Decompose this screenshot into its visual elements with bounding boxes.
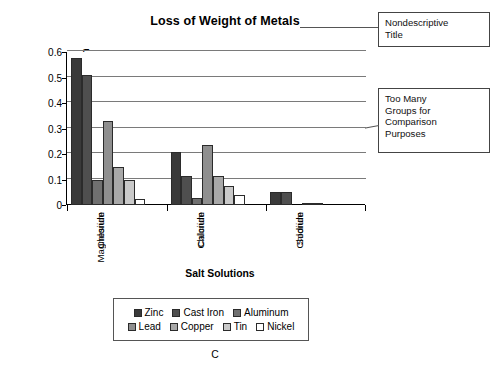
- figure-caption: C: [185, 349, 245, 360]
- legend-item-aluminum: Aluminum: [233, 307, 288, 318]
- x-axis-title: Salt Solutions: [120, 268, 320, 279]
- legend-swatch-icon: [134, 309, 142, 317]
- legend-label: Lead: [139, 321, 161, 332]
- annotation-line: Title: [385, 29, 484, 41]
- bar: [103, 121, 114, 205]
- bar: [82, 75, 93, 205]
- annotation-too-many-groups: Too Many Groups for Comparison Purposes: [378, 88, 490, 153]
- y-tick-mark: [62, 205, 66, 206]
- bar: [202, 145, 213, 205]
- bar: [281, 192, 292, 205]
- annotation-line: Purposes: [385, 128, 484, 140]
- annotation-line: Comparison: [385, 116, 484, 128]
- y-tick-label: 0.6: [36, 47, 62, 58]
- legend-swatch-icon: [256, 323, 264, 331]
- x-category-label-line: Chloride: [96, 212, 106, 249]
- bar: [181, 176, 192, 205]
- annotation-nondescriptive-title: Nondescriptive Title: [378, 12, 490, 47]
- gridline: [67, 50, 366, 51]
- bar: [135, 199, 146, 205]
- legend-swatch-icon: [233, 309, 241, 317]
- legend-item-cast-iron: Cast Iron: [172, 307, 224, 318]
- legend-label: Copper: [181, 321, 214, 332]
- legend-item-zinc: Zinc: [134, 307, 164, 318]
- x-tick-mark: [67, 205, 68, 211]
- legend-item-tin: Tin: [223, 321, 248, 332]
- bar: [71, 58, 82, 205]
- figure-container: Loss of Weight of Metals Nondescriptive …: [0, 0, 497, 381]
- bar-series-container: [67, 52, 366, 205]
- legend-row: LeadCopperTinNickel: [114, 321, 308, 332]
- legend-label: Tin: [234, 321, 248, 332]
- y-tick-label: 0.1: [36, 174, 62, 185]
- bar: [113, 167, 124, 205]
- bar: [171, 152, 182, 205]
- y-tick-label: 0.5: [36, 72, 62, 83]
- y-tick-label: 0.3: [36, 123, 62, 134]
- legend-row: ZincCast IronAluminum: [114, 307, 308, 318]
- x-category-label-line: Chloride: [196, 212, 206, 249]
- annotation-line: Nondescriptive: [385, 17, 484, 29]
- title-leader-line: [300, 27, 379, 28]
- bar: [192, 198, 203, 205]
- legend-label: Aluminum: [244, 307, 288, 318]
- legend-label: Zinc: [145, 307, 164, 318]
- x-tick-mark: [365, 205, 366, 211]
- legend-item-lead: Lead: [128, 321, 161, 332]
- bar: [224, 186, 235, 205]
- legend: ZincCast IronAluminum LeadCopperTinNicke…: [113, 298, 309, 341]
- legend-swatch-icon: [172, 309, 180, 317]
- x-tick-mark: [167, 205, 168, 211]
- chart-title: Loss of Weight of Metals: [115, 14, 335, 28]
- annotation-line: Too Many: [385, 93, 484, 105]
- x-tick-mark: [266, 205, 267, 211]
- legend-swatch-icon: [128, 323, 136, 331]
- bar: [213, 176, 224, 205]
- y-tick-label: 0.4: [36, 98, 62, 109]
- bar: [270, 192, 281, 205]
- legend-swatch-icon: [170, 323, 178, 331]
- y-tick-label: 0: [36, 200, 62, 211]
- y-tick-label: 0.2: [36, 149, 62, 160]
- annotation-line: Groups for: [385, 105, 484, 117]
- legend-label: Cast Iron: [183, 307, 224, 318]
- bar: [302, 203, 313, 205]
- bar: [313, 203, 324, 205]
- x-category-label-line: Chloride: [295, 212, 305, 249]
- bar: [234, 195, 245, 205]
- legend-label: Nickel: [267, 321, 294, 332]
- legend-swatch-icon: [223, 323, 231, 331]
- bar: [92, 180, 103, 206]
- y-axis-ticks: 00.10.20.30.40.50.6: [34, 52, 62, 205]
- legend-item-copper: Copper: [170, 321, 214, 332]
- legend-item-nickel: Nickel: [256, 321, 294, 332]
- bar: [124, 180, 135, 206]
- plot-area: [66, 52, 365, 205]
